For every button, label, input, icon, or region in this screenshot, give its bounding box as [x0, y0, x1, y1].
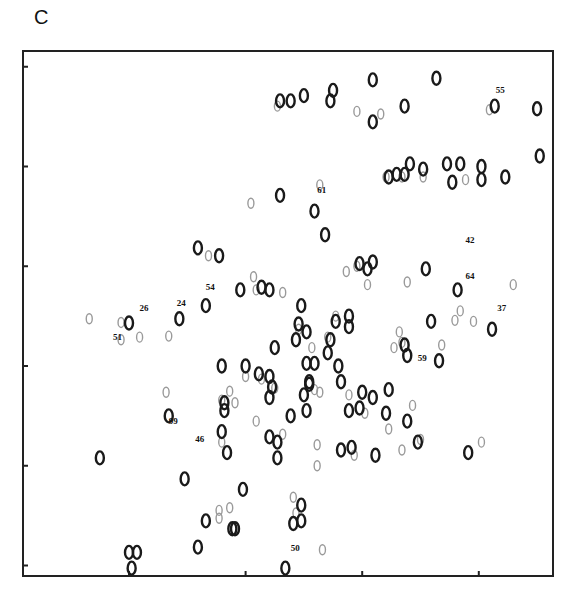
peak-comparison [232, 398, 238, 408]
peak-reference [364, 262, 372, 275]
peak-label: 46 [195, 434, 205, 444]
peak-reference [393, 168, 401, 181]
peak-reference [202, 299, 210, 312]
peak-reference [271, 341, 279, 354]
peak-comparison [404, 277, 410, 287]
peak-reference [337, 375, 345, 388]
peak-reference [369, 391, 377, 404]
peak-comparison [354, 106, 360, 116]
peak-reference [223, 446, 231, 459]
peak-reference [202, 514, 210, 527]
peak-label: 61 [317, 185, 327, 195]
peak-labels: 55614264542624513759994650 [113, 85, 507, 553]
peak-reference [371, 449, 379, 462]
peak-comparison [391, 343, 397, 353]
peak-reference [443, 157, 451, 170]
peak-label: 59 [418, 353, 428, 363]
peak-reference [297, 499, 305, 512]
peak-comparison [166, 331, 172, 341]
peak-reference [194, 241, 202, 254]
peak-comparison [118, 317, 124, 327]
peak-comparison [280, 288, 286, 298]
peak-reference [432, 72, 440, 85]
peak-reference [215, 249, 223, 262]
peak-comparison [471, 316, 477, 326]
peak-comparison [463, 175, 469, 185]
peak-comparison [346, 390, 352, 400]
peak-reference [385, 383, 393, 396]
peak-reference [533, 102, 541, 115]
peak-reference [276, 189, 284, 202]
peak-label: 50 [291, 543, 301, 553]
peak-reference [382, 407, 390, 420]
peak-reference [287, 94, 295, 107]
peak-reference [334, 360, 342, 373]
peak-reference [454, 283, 462, 296]
peak-label: 37 [497, 303, 507, 313]
peak-comparison [163, 387, 169, 397]
peak-reference [358, 386, 366, 399]
peak-comparison [248, 198, 254, 208]
peak-comparison [253, 416, 259, 426]
peak-comparison [378, 109, 384, 119]
plot-frame [23, 51, 553, 576]
peak-label: 42 [466, 235, 476, 245]
peak-reference [218, 425, 226, 438]
peak-comparison [227, 386, 233, 396]
peak-reference [175, 312, 183, 325]
peak-reference [297, 514, 305, 527]
peak-reference [477, 160, 485, 173]
peak-reference [194, 541, 202, 554]
peak-comparison [290, 492, 296, 502]
peak-reference [419, 163, 427, 176]
peak-label: 55 [496, 85, 506, 95]
peak-reference [501, 171, 509, 184]
peak-label: 99 [169, 416, 179, 426]
peak-reference [218, 360, 226, 373]
peak-reference [369, 115, 377, 128]
peak-comparison [478, 437, 484, 447]
peak-reference [427, 315, 435, 328]
peak-comparison [137, 332, 143, 342]
peak-reference [337, 444, 345, 457]
peak-comparison [343, 267, 349, 277]
peak-comparison [386, 424, 392, 434]
peak-reference [292, 333, 300, 346]
peak-reference [422, 262, 430, 275]
peak-reference [448, 176, 456, 189]
peak-reference [303, 325, 311, 338]
peak-reference [477, 173, 485, 186]
peak-reference [303, 404, 311, 417]
peak-reference [236, 283, 244, 296]
peak-label: 54 [206, 282, 216, 292]
peak-reference [300, 89, 308, 102]
peak-reference [324, 346, 332, 359]
peak-comparison [439, 340, 445, 350]
peak-reference [401, 100, 409, 113]
nmr-spectrum-plot: 55614264542624513759994650 [0, 0, 569, 597]
peak-comparison [457, 306, 463, 316]
peak-comparison [452, 315, 458, 325]
peak-reference [297, 299, 305, 312]
peak-reference [356, 402, 364, 415]
peak-comparison [227, 503, 233, 513]
peak-reference [311, 357, 319, 370]
peak-reference [345, 404, 353, 417]
peak-reference [289, 517, 297, 530]
peak-reference [369, 73, 377, 86]
peak-reference [96, 451, 104, 464]
peak-reference [300, 388, 308, 401]
peak-label: 51 [113, 332, 123, 342]
peak-comparison [251, 272, 257, 282]
peak-reference [281, 562, 289, 575]
peak-comparison [399, 445, 405, 455]
peak-comparison [365, 280, 371, 290]
peak-reference [536, 150, 544, 163]
peak-comparison [510, 280, 516, 290]
peak-reference [491, 100, 499, 113]
peak-reference [488, 323, 496, 336]
plot-frame-rect [23, 51, 553, 576]
peak-reference [403, 415, 411, 428]
peak-reference [242, 360, 250, 373]
peak-reference [273, 451, 281, 464]
